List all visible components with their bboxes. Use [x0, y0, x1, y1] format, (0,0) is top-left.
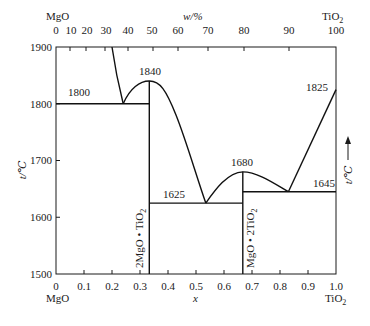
svg-text:1900: 1900 — [30, 41, 53, 53]
svg-text:90: 90 — [284, 24, 296, 36]
svg-text:0.2: 0.2 — [105, 280, 119, 292]
svg-text:60: 60 — [173, 24, 185, 36]
svg-text:100: 100 — [328, 24, 345, 36]
svg-text:1600: 1600 — [30, 211, 53, 223]
svg-text:40: 40 — [123, 24, 135, 36]
svg-text:0.3: 0.3 — [133, 280, 147, 292]
svg-text:0.6: 0.6 — [217, 280, 231, 292]
svg-text:1500: 1500 — [30, 268, 53, 280]
svg-text:1800: 1800 — [30, 98, 53, 110]
svg-text:1700: 1700 — [30, 154, 53, 166]
plot-frame — [56, 47, 336, 274]
svg-text:20: 20 — [82, 24, 94, 36]
bottom-left-component-label: MgO — [46, 292, 69, 304]
top-axis-title: w/% — [183, 10, 203, 22]
compound-label-mgo-2tio2: MgO • 2TiO2 — [244, 209, 259, 268]
top-left-component-label: MgO — [46, 10, 69, 22]
phase-boundaries — [56, 47, 336, 274]
left-axis-tick-labels: 1900 1800 1700 1600 1500 — [30, 41, 53, 280]
bottom-axis-tick-labels: 0 0.1 0.2 0.3 0.4 0.5 0.6 0.7 0.8 0.9 1.… — [53, 280, 343, 292]
liquidus-mgo-side — [112, 47, 123, 104]
svg-text:80: 80 — [239, 24, 251, 36]
svg-text:0.4: 0.4 — [161, 280, 175, 292]
svg-text:70: 70 — [203, 24, 215, 36]
right-axis-title: t/℃ — [342, 165, 354, 184]
svg-text:0: 0 — [53, 280, 59, 292]
bottom-axis-title: x — [192, 292, 198, 304]
temperature-annotations: 1800 1840 1625 1680 1645 1825 — [68, 65, 336, 200]
annotation-1840: 1840 — [139, 65, 162, 77]
annotation-1645: 1645 — [313, 177, 336, 189]
liquidus-dome-2mgo-tio2 — [123, 81, 206, 203]
svg-text:10: 10 — [66, 24, 78, 36]
top-axis-tick-labels: 0 10 20 30 40 50 60 70 80 90 100 — [53, 24, 345, 36]
top-right-component-label: TiO2 — [322, 10, 343, 25]
svg-text:0.1: 0.1 — [77, 280, 91, 292]
svg-text:0.8: 0.8 — [273, 280, 287, 292]
annotation-1625: 1625 — [163, 188, 186, 200]
bottom-axis-ticks — [84, 270, 308, 274]
svg-text:50: 50 — [147, 24, 159, 36]
annotation-1680: 1680 — [231, 156, 254, 168]
svg-text:0.7: 0.7 — [245, 280, 259, 292]
svg-text:1.0: 1.0 — [329, 280, 343, 292]
liquidus-dome-mgo-2tio2 — [206, 172, 289, 203]
top-axis-ticks — [70, 47, 289, 51]
svg-text:30: 30 — [101, 24, 113, 36]
left-axis-ticks — [56, 104, 60, 218]
annotation-1800: 1800 — [68, 86, 91, 98]
svg-text:0.9: 0.9 — [301, 280, 315, 292]
left-axis-title: t/℃ — [16, 160, 28, 179]
compound-label-2mgo-tio2: 2MgO • TiO2 — [133, 209, 148, 268]
right-axis-arrow-icon — [345, 136, 351, 160]
svg-text:0: 0 — [53, 24, 59, 36]
phase-diagram: MgO w/% TiO2 0 10 20 30 40 50 60 70 80 9… — [0, 0, 370, 326]
svg-text:0.5: 0.5 — [189, 280, 203, 292]
annotation-1825: 1825 — [306, 81, 329, 93]
bottom-right-component-label: TiO2 — [325, 292, 346, 307]
